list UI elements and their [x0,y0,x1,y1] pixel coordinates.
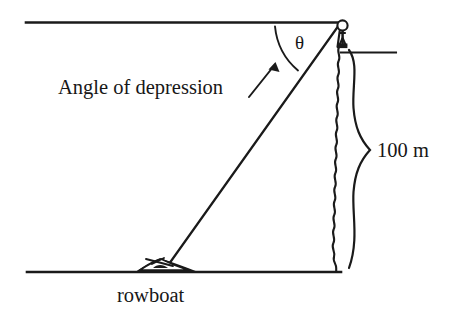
arrow-pointer-icon [249,62,280,97]
line-of-sight [164,25,339,271]
label-rowboat: rowboat [117,285,184,306]
rowboat-icon [137,258,196,272]
figure-canvas: Angle of depression θ 100 m rowboat [0,0,451,315]
cliff-face-wavy-line [333,47,340,272]
label-cliff-height: 100 m [377,140,429,161]
label-angle-of-depression: Angle of depression [58,77,223,98]
label-theta: θ [295,33,304,52]
curly-brace-icon [349,50,370,268]
